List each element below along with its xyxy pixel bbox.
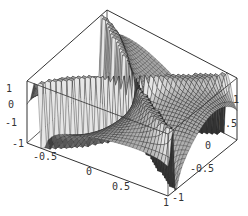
z-tick-label: -1 [5, 117, 17, 128]
y-tick-label: -0.5 [190, 163, 214, 174]
y-tick-label: 0.5 [219, 118, 237, 129]
x-tick-label: 0 [86, 166, 92, 177]
x-tick-label: -0.5 [33, 151, 57, 162]
y-tick-label: 0 [205, 140, 211, 151]
z-tick-label: 1 [6, 83, 12, 94]
x-tick-label: 0.5 [112, 181, 130, 192]
y-tick-label: 1 [233, 94, 239, 105]
x-tick-label: -1 [12, 138, 24, 149]
surface-plot-3d: 10-1-1-0.500.51-1-0.500.51 [0, 0, 248, 216]
y-tick-label: -1 [172, 192, 184, 203]
x-tick-label: 1 [163, 197, 169, 208]
z-tick-label: 0 [8, 99, 14, 110]
